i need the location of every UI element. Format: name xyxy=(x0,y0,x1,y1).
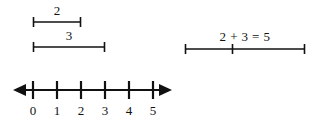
figure-text-layer: 2 3 2 + 3 = 5 0 1 2 3 4 5 xyxy=(0,0,314,124)
number-line-figure: 2 3 2 + 3 = 5 0 1 2 3 4 5 xyxy=(0,0,314,124)
span-three-label: 3 xyxy=(66,29,73,42)
number-line-label-0: 0 xyxy=(30,104,37,117)
number-line-label-4: 4 xyxy=(126,104,133,117)
number-line-label-5: 5 xyxy=(150,104,157,117)
span-two-label: 2 xyxy=(54,4,61,17)
number-line-label-3: 3 xyxy=(102,104,109,117)
number-line-label-2: 2 xyxy=(78,104,85,117)
number-line-label-1: 1 xyxy=(54,104,61,117)
equation-label: 2 + 3 = 5 xyxy=(220,30,271,43)
